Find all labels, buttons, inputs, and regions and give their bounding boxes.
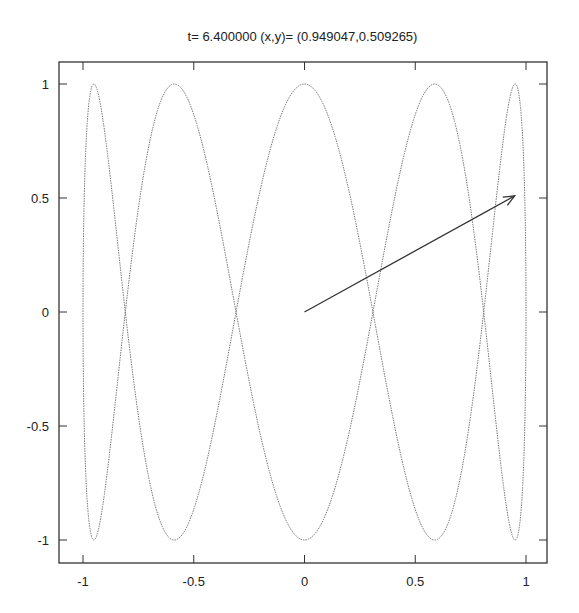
plot-area: -1-0.500.51-1-0.500.51 bbox=[0, 0, 579, 613]
x-tick-label: 0.5 bbox=[406, 574, 424, 589]
x-tick-label: 1 bbox=[522, 574, 529, 589]
y-tick-label: -1 bbox=[37, 533, 49, 548]
arrow-head-icon bbox=[503, 196, 515, 205]
x-tick-label: -1 bbox=[77, 574, 89, 589]
y-tick-label: -0.5 bbox=[27, 419, 49, 434]
plot-figure: t= 6.400000 (x,y)= (0.949047,0.509265) -… bbox=[0, 0, 579, 613]
position-arrow bbox=[305, 196, 515, 312]
x-tick-label: 0 bbox=[301, 574, 308, 589]
y-tick-label: 0 bbox=[42, 305, 49, 320]
x-tick-label: -0.5 bbox=[183, 574, 205, 589]
plot-frame bbox=[59, 62, 547, 563]
y-tick-label: 0.5 bbox=[31, 191, 49, 206]
y-tick-label: 1 bbox=[42, 77, 49, 92]
